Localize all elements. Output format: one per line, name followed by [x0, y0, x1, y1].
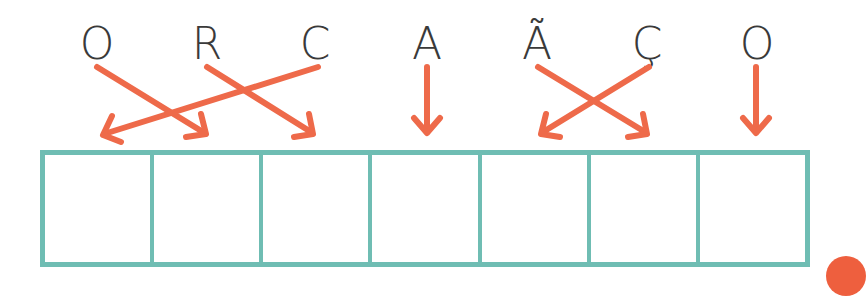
answer-cell-1[interactable]	[45, 155, 154, 262]
answer-grid	[40, 150, 810, 267]
arrow-icon	[97, 67, 206, 137]
arrows-layer	[0, 0, 845, 150]
arrow-icon	[743, 67, 769, 133]
answer-cell-6[interactable]	[591, 155, 700, 262]
arrow-icon	[103, 67, 318, 142]
arrow-icon	[414, 67, 440, 133]
answer-cell-3[interactable]	[263, 155, 372, 262]
answer-cell-5[interactable]	[482, 155, 591, 262]
answer-cell-2[interactable]	[154, 155, 263, 262]
answer-cell-4[interactable]	[372, 155, 481, 262]
answer-cell-7[interactable]	[700, 155, 805, 262]
decorative-circle-icon	[826, 256, 866, 296]
arrow-icon	[207, 67, 313, 137]
